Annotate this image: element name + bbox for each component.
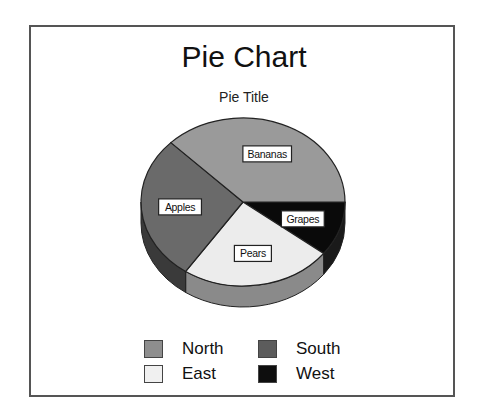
pie-label-pears: Pears [234,245,271,261]
legend-item-west: West [258,364,334,384]
legend-swatch-west [258,365,277,383]
svg-text:Bananas: Bananas [248,148,287,160]
legend-item-south: South [258,339,340,359]
legend-swatch-east [144,365,163,383]
svg-text:Apples: Apples [165,201,195,213]
legend-swatch-north [144,340,163,358]
pie-label-apples: Apples [159,199,202,215]
legend-label: West [296,364,334,384]
legend-label: South [296,339,340,359]
pie-label-bananas: Bananas [243,146,292,162]
pie-label-grapes: Grapes [281,211,324,227]
pie-chart: GrapesPearsApplesBananas [0,0,478,418]
legend-item-north: North [144,339,224,359]
svg-text:Pears: Pears [240,247,266,259]
svg-text:Grapes: Grapes [287,213,320,225]
legend-label: North [182,339,224,359]
legend-swatch-south [258,340,277,358]
legend-label: East [182,364,216,384]
legend-item-east: East [144,364,216,384]
